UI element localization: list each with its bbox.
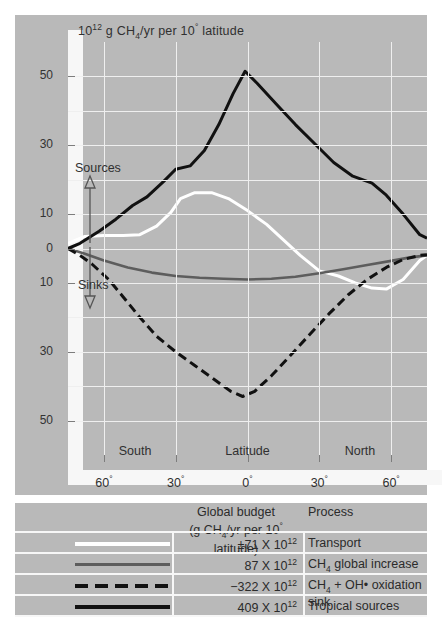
legend-header-budget-line1: Global budget [197, 505, 275, 519]
legend-swatch-solid-gray [75, 563, 170, 566]
y-tick-label: 30 [19, 138, 53, 150]
x-tick-label: 30° [311, 474, 328, 490]
legend-separator [15, 573, 427, 575]
plot-area [68, 42, 427, 455]
y-tick-label: 50 [19, 69, 53, 81]
unit-mid: g CH [102, 24, 135, 38]
gridline-h [68, 76, 427, 77]
y-tick-mark [68, 352, 75, 353]
y-tick-label: 50 [19, 414, 53, 426]
x-tick-label: 0° [242, 474, 252, 490]
y-minor-tick [53, 316, 68, 319]
legend-row: −322 X 1012CH4 + OH• oxidation sink [15, 575, 427, 596]
unit-exponent: 12 [92, 22, 102, 32]
unit-tail: latitude [198, 24, 244, 38]
legend-process-label: CH4 global increase [308, 557, 418, 574]
x-tick-mark [319, 455, 320, 462]
x-tick-mark [391, 455, 392, 462]
gridline-h [68, 386, 427, 387]
x-tick-label: 60° [95, 474, 112, 490]
gridline-h [68, 214, 427, 215]
sinks-label: Sinks [78, 278, 109, 292]
y-tick-label: 30 [19, 345, 53, 357]
legend-separator [15, 615, 427, 617]
unit-suffix: /yr per 10 [140, 24, 195, 38]
legend-budget-value: 409 X 1012 [175, 599, 297, 615]
y-tick-label: 10 [19, 276, 53, 288]
y-tick-mark [68, 76, 75, 77]
legend-budget-value: −322 X 1012 [175, 578, 297, 594]
x-region-label: South [119, 444, 152, 458]
y-tick-mark [68, 145, 75, 146]
x-region-label: Latitude [225, 444, 269, 458]
x-region-label: North [345, 444, 376, 458]
x-tick-label: 30° [167, 474, 184, 490]
legend-separator [15, 552, 427, 554]
legend-separator [15, 594, 427, 596]
legend-budget-value: ±71 X 1012 [175, 536, 297, 552]
legend-row: ±71 X 1012Transport [15, 533, 427, 554]
x-tick-mark [104, 455, 105, 462]
gridline-h [68, 421, 427, 422]
sources-label: Sources [75, 161, 121, 175]
legend-row: 409 X 1012Tropical sources [15, 596, 427, 617]
gridline-h [68, 249, 427, 250]
gridline-h [68, 352, 427, 353]
legend-row: 87 X 1012CH4 global increase [15, 554, 427, 575]
x-tick-label: 60° [382, 474, 399, 490]
y-minor-tick [53, 179, 68, 182]
x-tick-mark [176, 455, 177, 462]
legend-swatch-solid-black [75, 605, 170, 609]
y-minor-tick [53, 110, 68, 113]
legend-table: Global budget (g CH4/yr per 10° latitude… [15, 503, 427, 616]
y-tick-mark [68, 214, 75, 215]
y-tick-label: 10 [19, 207, 53, 219]
gridline-h [68, 317, 427, 318]
y-tick-mark [68, 421, 75, 422]
y-minor-tick [53, 385, 68, 388]
gridline-h [68, 111, 427, 112]
legend-separator [15, 531, 427, 533]
gridline-h [68, 283, 427, 284]
y-tick-label: 0 [19, 242, 53, 254]
gridline-h [68, 145, 427, 146]
y-tick-mark [68, 283, 75, 284]
legend-budget-value: 87 X 1012 [175, 557, 297, 573]
legend-process-label: Tropical sources [308, 599, 399, 613]
gridline-h [68, 180, 427, 181]
legend-swatch-solid-white [75, 542, 170, 546]
legend-header-process: Process [308, 505, 353, 519]
y-tick-mark [68, 249, 75, 250]
chart-unit-label: 1012 g CH4/yr per 10° latitude [78, 22, 244, 41]
unit-prefix: 10 [78, 24, 92, 38]
legend-process-label: Transport [308, 536, 361, 550]
legend-swatch-dashed-black [75, 584, 170, 588]
